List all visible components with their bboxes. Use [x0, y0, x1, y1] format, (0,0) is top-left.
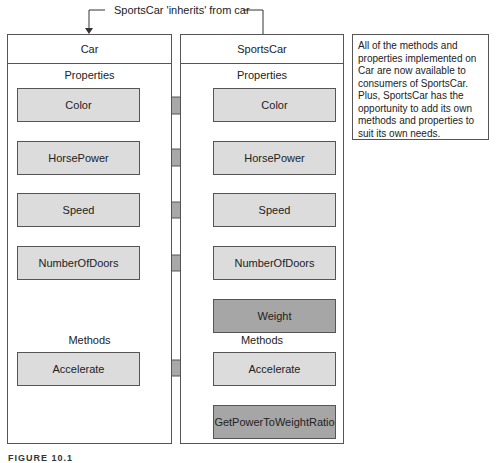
sportscar-method-getpowertoweightratio: GetPowerToWeightRatio	[213, 405, 336, 439]
sportscar-property-speed: Speed	[213, 193, 336, 227]
car-class-title: Car	[8, 35, 171, 64]
sportscar-property-color: Color	[213, 88, 336, 122]
car-properties-label: Properties	[8, 69, 171, 81]
car-method-accelerate: Accelerate	[17, 352, 140, 386]
car-property-numberofdoors: NumberOfDoors	[17, 246, 140, 280]
sportscar-properties-label: Properties	[181, 69, 343, 81]
sportscar-property-horsepower: HorsePower	[213, 141, 336, 175]
sportscar-method-accelerate: Accelerate	[213, 352, 336, 386]
explanatory-note: All of the methods and properties implem…	[352, 34, 489, 140]
sportscar-methods-label: Methods	[181, 334, 343, 346]
figure-caption: FIGURE 10.1	[8, 453, 73, 463]
car-property-color: Color	[17, 88, 140, 122]
car-class-box: Car Properties Color HorsePower Speed Nu…	[7, 34, 172, 444]
sportscar-class-box: SportsCar Properties Color HorsePower Sp…	[180, 34, 344, 444]
car-property-speed: Speed	[17, 193, 140, 227]
car-property-horsepower: HorsePower	[17, 141, 140, 175]
sportscar-property-weight: Weight	[213, 299, 336, 333]
inheritance-label: SportsCar 'inherits' from car	[114, 4, 250, 16]
sportscar-property-numberofdoors: NumberOfDoors	[213, 246, 336, 280]
car-methods-label: Methods	[8, 334, 171, 346]
sportscar-class-title: SportsCar	[181, 35, 343, 64]
